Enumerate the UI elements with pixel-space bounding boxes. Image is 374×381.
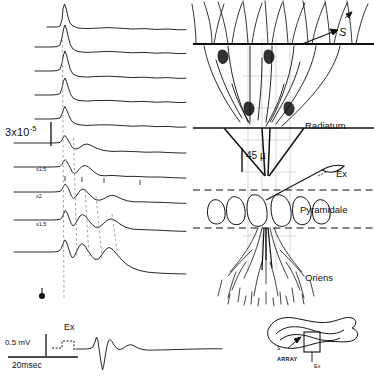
recording-electrode-label: Ex xyxy=(336,168,347,179)
stimulus-trace-label: Ex xyxy=(64,322,75,332)
amplitude-scale-mantissa: 3x10 xyxy=(5,126,30,138)
gain-annotation-2: x2 xyxy=(36,193,42,199)
layer-label-oriens: Oriens xyxy=(305,272,333,283)
soma xyxy=(226,197,245,225)
voltage-calibration-label: 0.5 mV xyxy=(5,338,30,347)
distance-scale-label: 45 µ xyxy=(246,150,266,161)
figure-canvas xyxy=(0,0,374,381)
stimulus-onset-marker xyxy=(39,293,45,299)
soma xyxy=(207,200,225,224)
figure-background xyxy=(0,0,374,381)
time-calibration-label: 20msec xyxy=(12,360,42,370)
gain-annotation-1: x1.5 xyxy=(36,166,46,172)
layer-label-pyramidale: Pyramidale xyxy=(300,204,348,215)
figure-root xyxy=(0,0,374,381)
inset-array-label: ARRAY xyxy=(277,356,298,362)
gain-annotation-3: x1.5 xyxy=(36,221,46,227)
amplitude-scale-exponent: -5 xyxy=(30,124,37,133)
amplitude-scale-label: 3x10-5 xyxy=(5,124,37,138)
inset-stim-label: S xyxy=(277,345,280,351)
stimulation-site-label: S xyxy=(339,26,346,38)
inset-electrode-label: Ex xyxy=(314,363,320,369)
layer-label-radiatum: Radiatum xyxy=(305,120,346,131)
